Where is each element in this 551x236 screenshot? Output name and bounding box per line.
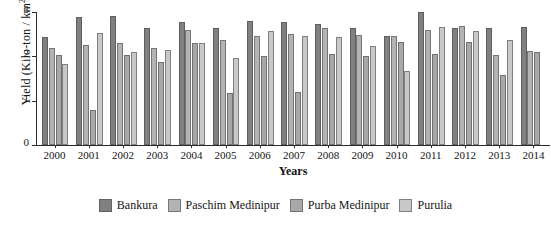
- x-axis-tick: [226, 145, 227, 148]
- bar: [322, 28, 328, 145]
- legend-swatch-icon: [168, 199, 181, 212]
- bar: [97, 33, 103, 145]
- x-axis-tick: [465, 145, 466, 148]
- legend-item[interactable]: Bankura: [99, 198, 158, 213]
- bar: [124, 55, 130, 145]
- bar: [151, 48, 157, 145]
- x-axis-line: [36, 145, 550, 146]
- bar: [131, 52, 137, 145]
- bar: [459, 26, 465, 145]
- bar: [247, 21, 253, 145]
- bar: [213, 28, 219, 145]
- legend-item[interactable]: Purba Medinipur: [290, 198, 390, 213]
- bar: [384, 36, 390, 146]
- bar: [268, 31, 274, 145]
- y-axis-tick: 0: [32, 145, 37, 146]
- bar: [425, 30, 431, 145]
- bar: [261, 56, 267, 145]
- bar: [466, 42, 472, 145]
- y-axis-tick-label: 2: [24, 48, 30, 59]
- x-axis-tick: [362, 145, 363, 148]
- bar-group: [42, 12, 70, 145]
- bar: [56, 55, 62, 145]
- legend-swatch-icon: [99, 199, 112, 212]
- bar: [83, 45, 89, 145]
- y-axis-label: Yield (Kilo-ton / km2): [18, 0, 34, 130]
- bar: [473, 31, 479, 145]
- bar: [90, 110, 96, 145]
- bar: [404, 71, 410, 145]
- bar: [500, 75, 506, 145]
- bar: [527, 51, 533, 145]
- bar: [295, 92, 301, 145]
- bar: [117, 43, 123, 145]
- bar: [144, 28, 150, 145]
- x-axis-tick: [499, 145, 500, 148]
- bar: [62, 64, 68, 145]
- legend-item-label: Paschim Medinipur: [186, 198, 280, 213]
- x-axis-tick: [328, 145, 329, 148]
- bar: [49, 48, 55, 145]
- bar-group: [315, 12, 343, 145]
- bar-group: [144, 12, 172, 145]
- x-axis-label: Years: [36, 164, 550, 179]
- bar: [391, 36, 397, 146]
- bar-group: [110, 12, 138, 145]
- bar: [439, 27, 445, 145]
- bar: [336, 37, 342, 145]
- bar-group: [350, 12, 378, 145]
- x-axis-tick: [89, 145, 90, 148]
- x-axis-tick: [533, 145, 534, 148]
- bar: [398, 42, 404, 145]
- bar-group: [384, 12, 412, 145]
- bar: [534, 52, 540, 145]
- bar: [233, 58, 239, 145]
- bar-group: [486, 12, 514, 145]
- x-axis-tick: [397, 145, 398, 148]
- bar-group: [76, 12, 104, 145]
- x-axis-tick: [431, 145, 432, 148]
- bar: [452, 28, 458, 145]
- bar: [220, 40, 226, 146]
- plot-area: 0123: [36, 12, 550, 146]
- bar: [199, 43, 205, 145]
- x-axis-ticks: 2000200120022003200420052006200720082009…: [36, 148, 550, 164]
- x-axis-tick: [294, 145, 295, 148]
- x-axis-tick-label: 2014: [513, 149, 551, 161]
- legend-item-label: Bankura: [117, 198, 158, 213]
- bar-group: [179, 12, 207, 145]
- bar: [165, 50, 171, 145]
- bar: [302, 36, 308, 145]
- bar: [227, 93, 233, 145]
- bar: [281, 22, 287, 145]
- legend-item-label: Purulia: [417, 198, 452, 213]
- x-axis-tick: [157, 145, 158, 148]
- bar: [185, 30, 191, 145]
- bar: [432, 54, 438, 145]
- bar: [493, 55, 499, 145]
- bar-group: [452, 12, 480, 145]
- bar: [254, 36, 260, 145]
- legend-swatch-icon: [290, 199, 303, 212]
- x-axis-tick: [260, 145, 261, 148]
- bar: [521, 27, 527, 145]
- bar: [288, 34, 294, 145]
- x-axis-tick: [123, 145, 124, 148]
- bar-group: [213, 12, 241, 145]
- y-axis-tick-label: 0: [24, 137, 30, 148]
- x-axis-tick: [191, 145, 192, 148]
- bar-group: [418, 12, 446, 145]
- bar: [315, 24, 321, 145]
- bar: [110, 16, 116, 145]
- bar: [507, 40, 513, 146]
- legend-item-label: Purba Medinipur: [308, 198, 390, 213]
- legend-item[interactable]: Paschim Medinipur: [168, 198, 280, 213]
- bar: [192, 43, 198, 145]
- bar: [356, 35, 362, 145]
- legend-item[interactable]: Purulia: [399, 198, 452, 213]
- bar: [363, 56, 369, 145]
- legend-swatch-icon: [399, 199, 412, 212]
- bar-chart-figure: Yield (Kilo-ton / km2) 0123 200020012002…: [0, 0, 551, 236]
- bar-group: [521, 12, 549, 145]
- y-axis-tick-label: 3: [24, 4, 30, 15]
